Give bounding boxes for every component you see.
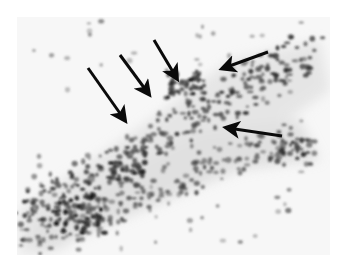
- arrow-icon-4: [224, 52, 268, 68]
- arrow-icon-3: [154, 40, 176, 77]
- arrow-icon-2: [120, 55, 148, 93]
- annotation-arrows: [0, 0, 342, 261]
- arrow-icon-5: [228, 128, 282, 136]
- arrow-icon-1: [88, 68, 124, 119]
